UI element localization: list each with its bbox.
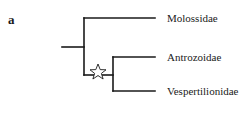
taxon-label-antrozoidae: Antrozoidae [167,51,221,63]
taxon-label-molossidae: Molossidae [167,12,218,24]
taxon-label-vespertilionidae: Vespertilionidae [167,85,238,97]
phylogenetic-tree-figure: a Molossidae Antrozoidae Vespertilionida… [0,0,252,124]
star-outline-icon [90,64,106,79]
